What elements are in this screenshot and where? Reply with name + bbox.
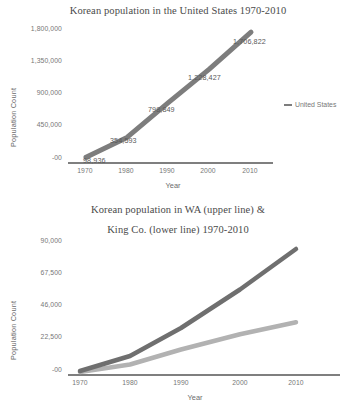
legend-label-united-states: United States xyxy=(295,101,336,108)
chart1-xtick-1990: 1990 xyxy=(144,167,190,174)
chart2-xtick-1980: 1980 xyxy=(107,379,153,386)
chart1-legend: United States xyxy=(284,101,336,108)
chart1-data-label-1970: 98,936 xyxy=(83,156,106,165)
chart2-title-line2: King Co. (lower line) 1970-2010 xyxy=(28,216,328,236)
chart1-x-axis-label: Year xyxy=(128,181,218,190)
chart2-y-axis-label: Population Count xyxy=(9,301,18,360)
chart2-xtick-2000: 2000 xyxy=(217,379,263,386)
chart2-plot-area: Population Count 90,000 67,500 46,000 22… xyxy=(0,236,356,404)
chart1-data-label-1980: 354,593 xyxy=(110,136,137,145)
chart-united-states: Korean population in the United States 1… xyxy=(0,0,356,196)
chart1-data-label-2010: 1,706,822 xyxy=(233,37,266,46)
chart1-xtick-2000: 2000 xyxy=(185,167,231,174)
chart2-xtick-1970: 1970 xyxy=(57,379,103,386)
chart1-xtick-2010: 2010 xyxy=(227,167,273,174)
chart2-ytick-2: 46,000 xyxy=(8,301,62,308)
chart1-plot-area: Population Count 1,800,000 1,350,000 900… xyxy=(0,17,356,193)
chart2-ytick-1: 22,500 xyxy=(8,333,62,340)
chart1-data-label-1990: 798,849 xyxy=(148,105,175,114)
chart2-series-wa xyxy=(68,238,340,376)
chart2-ytick-4: 90,000 xyxy=(8,237,62,244)
chart1-xtick-1970: 1970 xyxy=(62,167,108,174)
legend-swatch-united-states xyxy=(284,104,292,106)
chart2-title-line1: Korean population in WA (upper line) & xyxy=(28,196,328,216)
chart1-data-label-2000: 1,228,427 xyxy=(188,73,221,82)
chart1-ytick-3: 1,350,000 xyxy=(8,57,62,64)
chart1-xtick-1980: 1980 xyxy=(103,167,149,174)
chart1-ytick-1: 450,000 xyxy=(8,121,62,128)
chart1-series-united-states xyxy=(68,25,273,165)
chart-wa-king-county: Korean population in WA (upper line) & K… xyxy=(0,196,356,387)
chart2-ytick-3: 67,500 xyxy=(8,269,62,276)
chart1-title: Korean population in the United States 1… xyxy=(28,0,328,17)
chart2-xtick-2010: 2010 xyxy=(273,379,319,386)
chart2-ytick-0: -00 xyxy=(8,366,62,373)
chart1-ytick-2: 900,000 xyxy=(8,89,62,96)
chart1-ytick-4: 1,800,000 xyxy=(8,25,62,32)
chart2-x-axis-label: Year xyxy=(150,393,240,402)
chart1-ytick-0: -00 xyxy=(8,154,62,161)
chart2-xtick-1990: 1990 xyxy=(158,379,204,386)
chart1-y-axis-label: Population Count xyxy=(9,88,18,147)
